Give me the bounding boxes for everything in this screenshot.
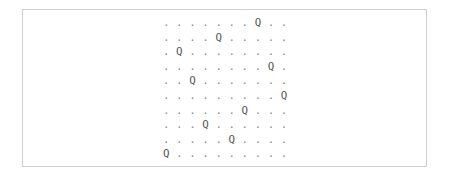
empty-cell: . <box>176 104 189 119</box>
queen-cell: Q <box>176 45 189 60</box>
queen-cell: Q <box>215 31 228 46</box>
empty-cell: . <box>215 16 228 31</box>
empty-cell: . <box>189 104 202 119</box>
board-row: Q......... <box>163 147 294 162</box>
empty-cell: . <box>176 60 189 75</box>
empty-cell: . <box>242 74 255 89</box>
empty-cell: . <box>176 16 189 31</box>
empty-cell: . <box>255 31 268 46</box>
empty-cell: . <box>189 89 202 104</box>
empty-cell: . <box>255 104 268 119</box>
empty-cell: . <box>202 16 215 31</box>
board-row: .Q........ <box>163 45 294 60</box>
empty-cell: . <box>281 147 294 162</box>
empty-cell: . <box>215 89 228 104</box>
empty-cell: . <box>176 89 189 104</box>
empty-cell: . <box>163 89 176 104</box>
board-row: ....Q..... <box>163 31 294 46</box>
empty-cell: . <box>163 104 176 119</box>
empty-cell: . <box>189 45 202 60</box>
queen-cell: Q <box>242 104 255 119</box>
empty-cell: . <box>176 133 189 148</box>
empty-cell: . <box>281 104 294 119</box>
empty-cell: . <box>255 60 268 75</box>
empty-cell: . <box>281 16 294 31</box>
empty-cell: . <box>242 133 255 148</box>
board-row: .....Q.... <box>163 133 294 148</box>
empty-cell: . <box>228 89 241 104</box>
empty-cell: . <box>242 118 255 133</box>
empty-cell: . <box>163 60 176 75</box>
empty-cell: . <box>176 118 189 133</box>
empty-cell: . <box>268 89 281 104</box>
empty-cell: . <box>268 118 281 133</box>
empty-cell: . <box>163 133 176 148</box>
empty-cell: . <box>215 118 228 133</box>
empty-cell: . <box>189 133 202 148</box>
empty-cell: . <box>268 31 281 46</box>
board-row: ...Q...... <box>163 118 294 133</box>
empty-cell: . <box>228 45 241 60</box>
empty-cell: . <box>189 118 202 133</box>
empty-cell: . <box>228 60 241 75</box>
empty-cell: . <box>215 104 228 119</box>
empty-cell: . <box>189 147 202 162</box>
empty-cell: . <box>255 45 268 60</box>
queen-cell: Q <box>202 118 215 133</box>
empty-cell: . <box>281 118 294 133</box>
queen-cell: Q <box>255 16 268 31</box>
empty-cell: . <box>202 89 215 104</box>
queen-cell: Q <box>281 89 294 104</box>
empty-cell: . <box>202 104 215 119</box>
empty-cell: . <box>215 133 228 148</box>
empty-cell: . <box>176 147 189 162</box>
empty-cell: . <box>176 31 189 46</box>
empty-cell: . <box>242 147 255 162</box>
empty-cell: . <box>228 31 241 46</box>
empty-cell: . <box>228 104 241 119</box>
empty-cell: . <box>202 147 215 162</box>
empty-cell: . <box>163 74 176 89</box>
empty-cell: . <box>163 31 176 46</box>
empty-cell: . <box>268 45 281 60</box>
empty-cell: . <box>189 16 202 31</box>
empty-cell: . <box>176 74 189 89</box>
empty-cell: . <box>281 31 294 46</box>
board-frame: .......Q......Q......Q................Q.… <box>22 9 427 167</box>
empty-cell: . <box>215 147 228 162</box>
empty-cell: . <box>281 133 294 148</box>
board-row: ......Q... <box>163 104 294 119</box>
empty-cell: . <box>163 45 176 60</box>
empty-cell: . <box>202 31 215 46</box>
empty-cell: . <box>242 45 255 60</box>
empty-cell: . <box>228 147 241 162</box>
empty-cell: . <box>255 89 268 104</box>
board-row: .......Q.. <box>163 16 294 31</box>
empty-cell: . <box>202 74 215 89</box>
empty-cell: . <box>242 60 255 75</box>
empty-cell: . <box>268 147 281 162</box>
empty-cell: . <box>228 118 241 133</box>
empty-cell: . <box>242 16 255 31</box>
empty-cell: . <box>268 74 281 89</box>
empty-cell: . <box>215 74 228 89</box>
empty-cell: . <box>255 133 268 148</box>
empty-cell: . <box>215 45 228 60</box>
empty-cell: . <box>189 60 202 75</box>
empty-cell: . <box>189 31 202 46</box>
empty-cell: . <box>268 104 281 119</box>
empty-cell: . <box>202 60 215 75</box>
empty-cell: . <box>163 118 176 133</box>
empty-cell: . <box>202 45 215 60</box>
empty-cell: . <box>228 16 241 31</box>
empty-cell: . <box>202 133 215 148</box>
empty-cell: . <box>281 60 294 75</box>
empty-cell: . <box>163 16 176 31</box>
board-row: ..Q....... <box>163 74 294 89</box>
empty-cell: . <box>281 45 294 60</box>
empty-cell: . <box>255 147 268 162</box>
queens-board: .......Q......Q......Q................Q.… <box>163 16 294 162</box>
empty-cell: . <box>268 133 281 148</box>
empty-cell: . <box>255 118 268 133</box>
board-row: .........Q <box>163 89 294 104</box>
